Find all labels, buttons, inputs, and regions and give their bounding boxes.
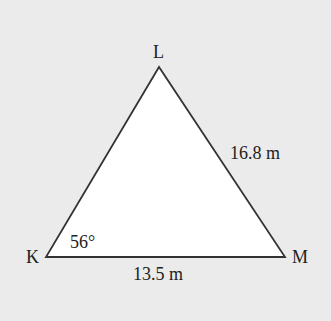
vertex-label-k: K [26, 247, 39, 267]
angle-k-label: 56° [70, 232, 95, 252]
side-km-label: 13.5 m [133, 264, 183, 284]
vertex-label-m: M [292, 247, 308, 267]
vertex-label-l: L [153, 42, 164, 62]
triangle-diagram: L K M 56° 16.8 m 13.5 m [0, 0, 331, 321]
side-lm-label: 16.8 m [230, 143, 280, 163]
